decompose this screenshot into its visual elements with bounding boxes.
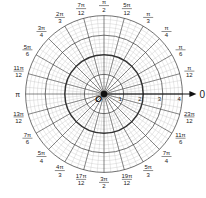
minor-radial — [107, 113, 117, 171]
minor-radial — [90, 17, 100, 75]
minor-radial — [90, 113, 100, 171]
angle-numerator: 5π — [38, 150, 45, 156]
angle-denominator: 12 — [124, 180, 131, 186]
angle-numerator: π — [146, 11, 150, 17]
minor-radial — [107, 17, 117, 75]
angle-denominator: 6 — [179, 51, 183, 57]
angle-label: 5π6 — [22, 44, 32, 57]
angle-numerator: 5π — [24, 44, 31, 50]
angle-numerator: 17π — [76, 173, 87, 179]
angle-denominator: 6 — [26, 51, 30, 57]
angle-denominator: 3 — [147, 172, 151, 178]
axis-zero-label: 0 — [199, 89, 205, 100]
angle-denominator: 4 — [165, 158, 169, 164]
angle-label: 5π4 — [36, 150, 46, 163]
arrow-right-icon — [189, 91, 196, 97]
angle-denominator: 6 — [179, 139, 183, 145]
angle-numerator: 2π — [56, 11, 63, 17]
angle-label: π6 — [176, 44, 186, 57]
angle-denominator: 12 — [15, 118, 22, 124]
angle-label: π4 — [162, 25, 172, 38]
angle-denominator: 4 — [40, 158, 44, 164]
angle-denominator: 12 — [124, 10, 131, 16]
angle-numerator: 13π — [13, 111, 24, 117]
angle-label: π12 — [184, 65, 194, 78]
minor-radial — [26, 96, 85, 101]
angle-numerator: 11π — [13, 65, 23, 71]
angle-denominator: 12 — [78, 10, 85, 16]
minor-radial — [26, 87, 85, 92]
minor-radial — [124, 96, 183, 101]
radius-label: 2 — [138, 96, 142, 102]
angle-label: 7π12 — [76, 2, 86, 15]
angle-label: 3π4 — [36, 25, 46, 38]
minor-radial — [123, 97, 181, 107]
angle-label: 7π4 — [162, 150, 172, 163]
angle-denominator: 3 — [147, 18, 151, 24]
angle-denominator: 12 — [186, 118, 193, 124]
minor-radial — [97, 114, 102, 173]
angle-label: 19π12 — [121, 173, 132, 186]
angle-pi: π — [15, 91, 20, 98]
minor-radial — [27, 80, 85, 90]
angle-numerator: 3π — [38, 25, 45, 31]
angle-numerator: π — [164, 25, 168, 31]
angle-denominator: 3 — [58, 172, 62, 178]
angle-denominator: 4 — [165, 32, 169, 38]
angle-label: 17π12 — [76, 173, 87, 186]
angle-label: π2 — [99, 0, 109, 13]
angle-denominator: 12 — [186, 72, 193, 78]
angle-numerator: 4π — [56, 164, 63, 170]
angle-label: 11π6 — [175, 132, 185, 145]
angle-numerator: 19π — [121, 173, 132, 179]
angle-numerator: 5π — [123, 2, 130, 8]
angle-label: 2π3 — [55, 11, 65, 24]
angle-denominator: 4 — [40, 32, 44, 38]
radius-label: 4 — [177, 96, 181, 102]
minor-radial — [27, 97, 85, 107]
angle-denominator: 12 — [78, 180, 85, 186]
angle-numerator: π — [178, 44, 182, 50]
polar-coordinate-grid: 0O π12π6π4π35π12π27π122π33π45π611π12π13π… — [0, 0, 206, 198]
angle-label: 3π2 — [99, 176, 109, 189]
angle-numerator: 11π — [175, 132, 185, 138]
angle-label: 23π12 — [184, 111, 195, 124]
angle-label: 13π12 — [13, 111, 24, 124]
angle-label: 11π12 — [13, 65, 23, 78]
angle-label: 4π3 — [55, 164, 65, 177]
angle-label: 7π6 — [22, 132, 32, 145]
angle-numerator: 3π — [100, 176, 107, 182]
angle-denominator: 2 — [102, 183, 106, 189]
minor-radial — [106, 16, 111, 75]
minor-radial — [123, 80, 181, 90]
minor-radial — [124, 87, 183, 92]
angle-denominator: 12 — [15, 72, 22, 78]
angle-numerator: π — [187, 65, 191, 71]
angle-denominator: 6 — [26, 139, 30, 145]
angle-denominator: 3 — [58, 18, 62, 24]
angle-numerator: π — [102, 0, 106, 5]
angle-denominator: 2 — [102, 7, 106, 13]
angle-numerator: 7π — [24, 132, 31, 138]
angle-label: π3 — [143, 11, 153, 24]
angle-numerator: 7π — [77, 2, 84, 8]
angle-numerator: 7π — [163, 150, 170, 156]
angle-label: 5π3 — [143, 164, 153, 177]
angle-label: 5π12 — [122, 2, 132, 15]
origin-label: O — [95, 94, 102, 104]
angle-label: π — [15, 91, 20, 98]
angle-numerator: 23π — [184, 111, 195, 117]
radius-labels: 1234 — [119, 96, 182, 102]
minor-radial — [97, 16, 102, 75]
minor-radial — [106, 114, 111, 173]
angle-numerator: 5π — [144, 164, 151, 170]
